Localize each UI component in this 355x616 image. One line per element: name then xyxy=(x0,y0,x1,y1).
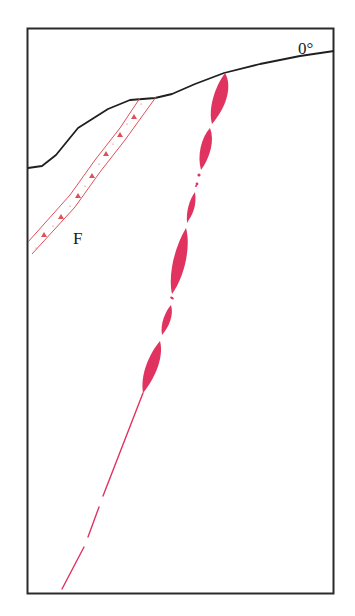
geologic-cross-section: 0° F xyxy=(0,0,355,616)
vein-lens-2 xyxy=(199,128,212,170)
vein xyxy=(142,73,228,393)
vein-lens-3 xyxy=(187,192,196,223)
vein-lens-6 xyxy=(142,341,161,393)
vein-tail xyxy=(62,393,143,589)
fault-zone-markers xyxy=(35,103,141,248)
vein-lens-5 xyxy=(162,305,172,335)
fault-label: F xyxy=(73,229,82,248)
vein-lens-4 xyxy=(171,228,188,294)
angle-label: 0° xyxy=(298,39,313,58)
frame xyxy=(28,29,334,594)
vein-lens-1 xyxy=(211,73,229,124)
ground-surface xyxy=(28,51,334,168)
